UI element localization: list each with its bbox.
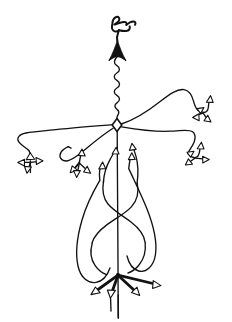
arrowhead-inner-left-up bbox=[112, 147, 119, 154]
arrowhead-bottom-right bbox=[153, 281, 161, 289]
arrowhead-inner-left-small bbox=[99, 162, 106, 169]
cluster-upper-right bbox=[193, 96, 214, 122]
arrowhead-inner-right-small bbox=[128, 153, 135, 160]
cluster-far-left bbox=[18, 150, 43, 173]
arrowhead-lr-left bbox=[187, 151, 194, 157]
center-hub bbox=[112, 119, 122, 132]
cluster-lower-right bbox=[185, 142, 209, 165]
bottom-arrows bbox=[91, 275, 161, 298]
top-scribble bbox=[112, 17, 136, 38]
left-sweep-lower bbox=[60, 128, 113, 161]
arrowhead-ur-up bbox=[206, 96, 213, 103]
bottom-tail bbox=[111, 295, 119, 318]
arrowhead-inner-right-up bbox=[129, 143, 136, 150]
hand-drawn-arrow-figure bbox=[0, 0, 232, 322]
arrowhead-lr-downleft bbox=[185, 159, 192, 165]
cluster-mid-left bbox=[68, 147, 90, 178]
arrowhead-lr-right bbox=[203, 156, 210, 163]
lower-lobes bbox=[77, 169, 156, 283]
arrowhead-bottom-down bbox=[107, 290, 115, 298]
arrowhead-ml-down bbox=[74, 171, 81, 178]
arrowhead-fl-right bbox=[36, 158, 43, 165]
arrowhead-lr-up bbox=[197, 142, 204, 149]
arrowhead-fl-left bbox=[18, 159, 25, 166]
drawing-canvas: Abstract arrow figure Hand-drawn abstrac… bbox=[0, 0, 232, 322]
right-sweep-upper bbox=[121, 89, 197, 124]
left-sweep-upper bbox=[18, 125, 113, 151]
spine bbox=[117, 131, 118, 318]
inner-loops bbox=[92, 143, 145, 243]
arrowhead-fl-up bbox=[26, 153, 34, 160]
wavy-stem bbox=[114, 57, 119, 120]
